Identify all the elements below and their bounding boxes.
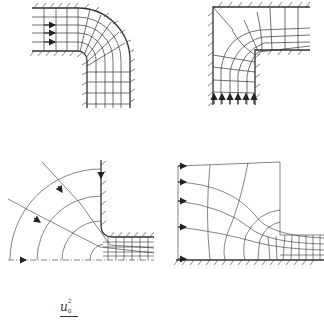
panel-c-quadrant (8, 160, 154, 260)
formula-superscript: 2 (68, 299, 72, 305)
formula-base: u (60, 300, 68, 314)
panel-a-bend (30, 3, 135, 108)
panel-d-contraction (174, 162, 324, 265)
velocity-squared-formula: u20 (60, 301, 68, 313)
fraction-bar (60, 316, 78, 317)
formula-subscript: 0 (68, 309, 72, 315)
flow-net-figure (0, 0, 324, 323)
panel-b-corner (208, 2, 310, 106)
